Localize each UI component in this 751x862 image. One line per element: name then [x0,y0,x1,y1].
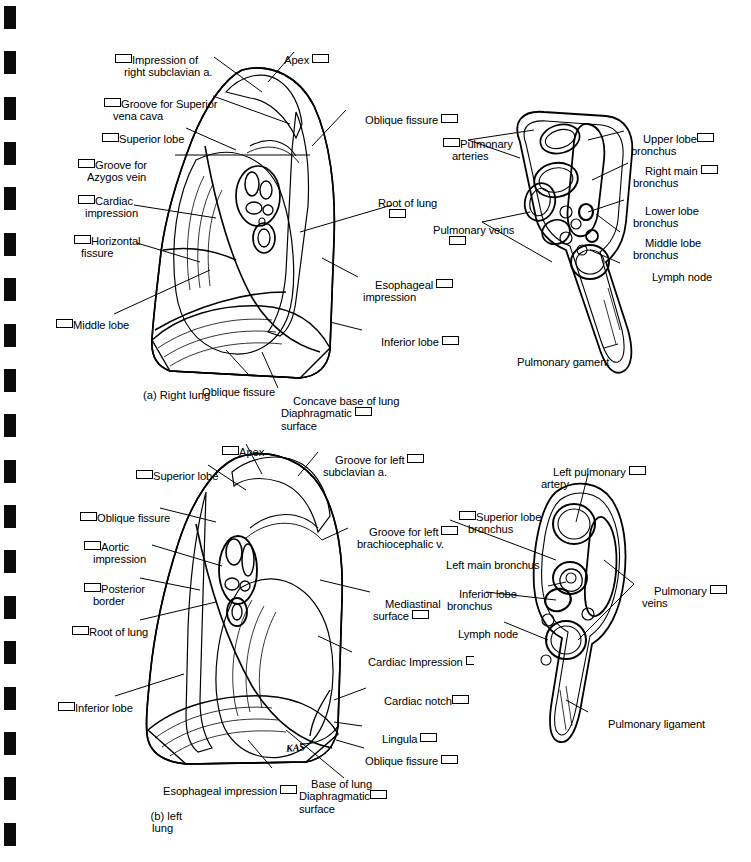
answer-box[interactable] [420,733,437,742]
label-text: Left pulmonary [553,466,626,479]
label-text: Superior lobe [476,511,541,524]
label-text: Pulmonary [460,138,513,151]
label-text: Inferior lobe [381,336,439,349]
label-text-line2: Diaphragmatic [299,790,370,803]
answer-box[interactable] [72,626,89,635]
label-text: Lower lobe [645,205,699,218]
label-text: Impression of [132,54,198,67]
label-superior-lobe-left[interactable]: Superior lobe [124,457,218,495]
label-text: Concave base of lung [293,395,399,408]
answer-box[interactable] [102,133,119,142]
label-text: Pulmonary ligament [608,718,705,731]
answer-box[interactable] [629,466,646,475]
answer-box[interactable] [449,236,466,245]
label-left-pulmonary-artery[interactable]: Left pulmonary artery [541,453,646,503]
answer-box[interactable] [136,470,153,479]
label-pulmonary-ligament: Pulmonary ligament [596,705,705,743]
label-root-of-lung-left[interactable]: Root of lung [60,613,148,651]
label-text: Lymph node [652,271,712,284]
label-superior-lobe-bronchus[interactable]: Superior lobebronchus [447,498,541,548]
label-text: Left main bronchus [446,559,539,572]
label-text: Inferior lobe [75,702,133,715]
label-text: Superior lobe [153,470,218,483]
answer-box[interactable] [452,695,469,704]
right-hilum-cross-section [517,112,632,373]
label-text: Esophageal impression [163,785,277,798]
label-base-of-lung-diaphragmatic-surface[interactable]: Base of lungDiaphragmaticsurface [299,765,387,828]
label-text-line2: right subclavian a. [124,66,212,78]
answer-box[interactable] [466,656,474,665]
label-pulmonary-gament: Pulmonary gament [505,343,609,381]
answer-box[interactable] [58,702,75,711]
answer-box[interactable] [389,209,406,218]
worksheet-page: Impression ofright subclavian a. Groove … [0,0,751,862]
label-text-line2: arteries [452,150,489,162]
label-mediastinal-surface[interactable]: Mediastinalsurface [373,585,441,635]
label-text-line2: bronchus [633,177,678,189]
label-text: Horizontal [91,235,140,248]
answer-box[interactable] [312,54,329,63]
answer-box[interactable] [442,336,459,345]
answer-box[interactable] [436,279,453,288]
label-lymph-node-left: Lymph node [446,615,518,653]
label-text: Groove for [95,159,147,172]
label-pulmonary-veins-right[interactable]: Pulmonary veins [421,211,514,261]
label-text: Lymph node [458,628,518,641]
label-text: Superior lobe [119,133,184,146]
label-text: Pulmonary [654,585,707,598]
answer-box[interactable] [56,319,73,328]
label-text: Groove for left [335,454,404,467]
label-middle-lobe[interactable]: Middle lobe [44,306,129,344]
answer-box[interactable] [115,54,132,63]
label-inferior-lobe-right[interactable]: Inferior lobe [369,323,459,361]
label-inferior-lobe-left[interactable]: Inferior lobe [46,689,133,727]
label-pulmonary-veins-left[interactable]: Pulmonary veins [642,572,727,622]
answer-box[interactable] [407,454,424,463]
answer-box[interactable] [370,790,387,799]
answer-box[interactable] [80,512,97,521]
answer-box[interactable] [412,610,429,619]
artist-signature: KAS [286,741,306,753]
label-text-line2: subclavian a. [323,466,387,478]
label-cardiac-notch[interactable]: Cardiac notch [372,682,469,720]
answer-box[interactable] [84,583,101,592]
label-pulmonary-arteries[interactable]: Pulmonaryarteries [431,125,513,175]
answer-box[interactable] [84,541,101,550]
label-text-line3: surface [281,420,317,432]
label-text: Posterior [101,583,145,596]
label-text: Apex [239,446,264,459]
label-lymph-node-right: Lymph node [640,258,712,296]
label-text-line2: bronchus [447,600,492,612]
label-text: Esophageal [375,279,433,292]
answer-box[interactable] [74,235,91,244]
label-apex-right[interactable]: Apex [272,41,329,79]
figure-caption-a: (a) Right lung [143,389,210,402]
answer-box[interactable] [443,138,460,147]
label-text-line3: surface [299,803,335,815]
label-concave-base-diaphragmatic-surface[interactable]: Concave base of lungDiaphragmatic surfac… [281,382,399,445]
answer-box[interactable] [104,98,121,107]
left-hilum-cross-section [534,484,626,743]
answer-box[interactable] [701,165,718,174]
answer-box[interactable] [78,195,95,204]
answer-box[interactable] [710,585,727,594]
answer-box[interactable] [697,133,714,142]
label-text-line2: surface [373,610,409,623]
label-text-line2: bronchus [468,523,513,535]
label-esophageal-impression-right[interactable]: Esophageal impression [363,266,453,316]
answer-box[interactable] [280,785,297,794]
label-text-line2: veins [642,597,668,609]
label-text: Mediastinal [385,598,441,611]
left-lung-drawing [147,454,343,764]
answer-box[interactable] [441,755,458,764]
answer-box[interactable] [78,159,95,168]
label-text: Cardiac Impression [368,656,463,669]
label-horizontal-fissure[interactable]: Horizontalfissure [62,222,140,272]
answer-box[interactable] [441,114,458,123]
answer-box[interactable] [222,446,239,455]
label-groove-for-left-subclavian-a[interactable]: Groove for left subclavian a. [323,441,424,491]
label-text-line2: border [93,595,125,607]
answer-box[interactable] [355,407,372,416]
label-impression-of-right-subclavian-a[interactable]: Impression ofright subclavian a. [103,41,212,91]
answer-box[interactable] [459,511,476,520]
